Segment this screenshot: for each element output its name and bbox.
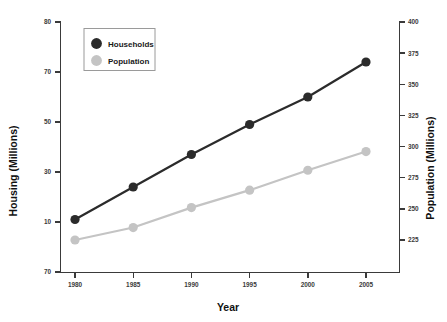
data-point-households <box>70 215 79 224</box>
y-axis-title-right: Population (Millions) <box>424 116 436 219</box>
data-point-population <box>129 223 138 232</box>
data-point-population <box>187 203 196 212</box>
legend-swatch-population <box>91 55 102 66</box>
x-tick-label: 1990 <box>184 281 199 288</box>
left-tick-label: 80 <box>44 18 52 25</box>
legend-swatch-households <box>91 38 102 49</box>
right-tick-label: 225 <box>408 236 419 243</box>
right-tick-label: 350 <box>408 81 419 88</box>
left-tick-label: 10 <box>44 218 52 225</box>
left-tick-label: 70 <box>44 268 52 275</box>
data-point-population <box>245 186 254 195</box>
series-line-households <box>75 62 366 220</box>
data-point-population <box>361 147 370 156</box>
y-axis-title-left: Housing (Millions) <box>7 126 19 217</box>
data-point-households <box>245 120 254 129</box>
data-point-households <box>187 150 196 159</box>
right-axis-ticks: 400375350325300275250225 <box>400 18 420 243</box>
data-point-households <box>361 57 370 66</box>
legend-label-households: Households <box>108 40 154 49</box>
right-tick-label: 250 <box>408 205 419 212</box>
x-tick-label: 2000 <box>301 281 316 288</box>
data-point-population <box>70 235 79 244</box>
right-tick-label: 400 <box>408 18 419 25</box>
left-tick-label: 30 <box>44 168 52 175</box>
data-point-population <box>303 166 312 175</box>
legend-label-population: Population <box>108 57 149 66</box>
data-series-layer <box>70 57 370 244</box>
right-tick-label: 375 <box>408 50 419 57</box>
data-point-households <box>129 182 138 191</box>
x-tick-label: 2005 <box>359 281 374 288</box>
right-tick-label: 275 <box>408 174 419 181</box>
x-tick-label: 1985 <box>126 281 141 288</box>
left-tick-label: 70 <box>44 68 52 75</box>
left-axis-ticks: 807050301070 <box>44 18 61 275</box>
chart-canvas: 807050301070 400375350325300275250225 19… <box>0 0 447 322</box>
x-tick-label: 1995 <box>242 281 257 288</box>
x-tick-label: 1980 <box>68 281 83 288</box>
right-tick-label: 325 <box>408 112 419 119</box>
chart-figure: 807050301070 400375350325300275250225 19… <box>0 0 447 322</box>
left-tick-label: 50 <box>44 118 52 125</box>
x-axis-ticks: 198019851990199520002005 <box>68 273 374 289</box>
legend: Households Population <box>84 29 155 71</box>
x-axis-title: Year <box>217 301 239 313</box>
data-point-households <box>303 92 312 101</box>
right-tick-label: 300 <box>408 143 419 150</box>
